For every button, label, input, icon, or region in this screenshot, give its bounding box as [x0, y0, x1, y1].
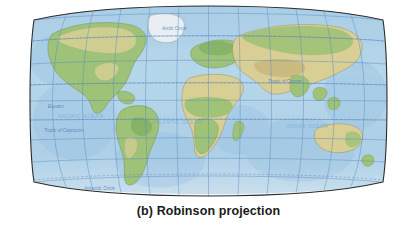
tropic-of-cancer-label: Tropic of Cancer	[268, 79, 302, 84]
indian-ocean-label: INDIAN OCEAN	[286, 123, 328, 129]
world-map: Arctic Circle Tropic of Cancer Equator T…	[0, 0, 417, 232]
pacific-ocean-label: PACIFIC OCEAN	[58, 113, 103, 119]
figure-caption: (b) Robinson projection	[0, 204, 417, 218]
arctic-circle-label: Arctic Circle	[161, 26, 187, 31]
tropic-of-capricorn-label: Tropic of Capricorn	[44, 128, 83, 133]
ocean-surface: Arctic Circle Tropic of Cancer Equator T…	[25, 2, 395, 202]
robinson-projection-figure: Arctic Circle Tropic of Cancer Equator T…	[0, 0, 417, 232]
equator-label: Equator	[48, 104, 65, 109]
atlantic-ocean-label: ATLANTIC OCEAN	[151, 119, 202, 125]
